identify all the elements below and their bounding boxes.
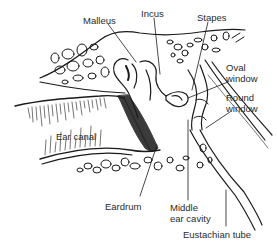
label-middle-ear-cavity: Middle ear cavity [170,202,211,224]
middle-ear-illustration [0,0,277,250]
inner-ear-wall [188,65,208,130]
label-incus: Incus [141,8,164,19]
label-oval-window: Oval window [226,62,258,84]
label-malleus: Malleus [83,15,116,26]
label-eardrum: Eardrum [105,201,141,212]
label-stapes: Stapes [197,12,227,23]
eardrum [118,95,158,151]
label-eustachian-tube: Eustachian tube [183,229,251,240]
label-ear-canal: Ear canal [56,131,96,142]
label-round-window: Round window [226,92,258,114]
